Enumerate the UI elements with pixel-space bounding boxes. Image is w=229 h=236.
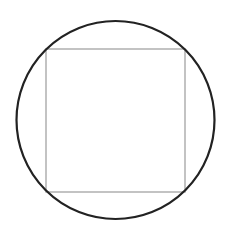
inscribed-square <box>46 49 185 192</box>
inscribed-square-diagram <box>0 0 229 236</box>
diagram-canvas <box>0 0 229 236</box>
